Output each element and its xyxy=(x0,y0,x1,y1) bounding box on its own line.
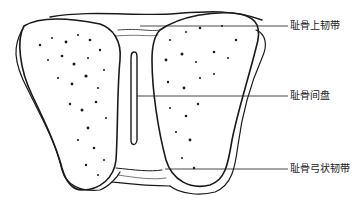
left-pubic-bone-rim xyxy=(16,30,120,190)
label-superior-pubic-ligament: 耻骨上韧带 xyxy=(290,20,340,32)
label-arcuate-pubic-ligament: 耻骨弓状韧带 xyxy=(290,163,350,175)
label-interpubic-disc: 耻骨间盘 xyxy=(290,90,330,102)
bone-texture xyxy=(39,25,237,176)
inferior-ligament-band xyxy=(116,168,162,171)
interpubic-disc-cleft xyxy=(131,52,137,145)
right-pubic-bone xyxy=(152,13,259,186)
